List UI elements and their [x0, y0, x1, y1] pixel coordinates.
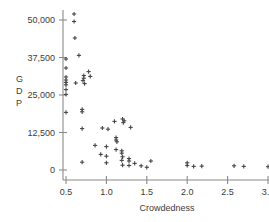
data-point-marker: [127, 163, 131, 167]
data-point-marker: [120, 155, 124, 159]
data-point-marker: [192, 164, 196, 168]
data-point-marker: [185, 163, 189, 167]
data-point-marker: [106, 127, 110, 131]
y-axis-title-letter: D: [16, 86, 23, 96]
y-axis-title-letter: G: [16, 74, 23, 84]
data-point-marker: [72, 19, 76, 23]
data-points: [64, 12, 269, 170]
data-point-marker: [232, 164, 236, 168]
data-point-marker: [133, 161, 137, 165]
data-point-marker: [74, 81, 78, 85]
data-point-marker: [64, 66, 68, 70]
x-tick-label: 2.5: [221, 187, 234, 197]
data-point-marker: [112, 119, 116, 123]
y-tick-label: 37,500: [27, 53, 55, 63]
y-axis: 012,50025,00037,50050,000: [27, 10, 67, 180]
y-tick-label: 25,000: [27, 90, 55, 100]
data-point-marker: [77, 53, 81, 57]
data-point-marker: [120, 151, 124, 155]
data-point-marker: [73, 36, 77, 40]
data-point-marker: [88, 74, 92, 78]
data-point-marker: [100, 126, 104, 130]
data-point-marker: [266, 165, 269, 169]
data-point-marker: [93, 143, 97, 147]
x-tick-label: 3.0: [262, 187, 269, 197]
plot-canvas: 012,50025,00037,50050,000 0.51.01.52.02.…: [0, 0, 269, 222]
data-point-marker: [127, 159, 131, 163]
scatter-plot-figure: 012,50025,00037,50050,000 0.51.01.52.02.…: [0, 0, 269, 222]
data-point-marker: [200, 164, 204, 168]
data-point-marker: [99, 152, 103, 156]
data-point-marker: [149, 159, 153, 163]
data-point-marker: [87, 70, 91, 74]
y-tick-label: 50,000: [27, 15, 55, 25]
x-tick-label: 2.0: [181, 187, 194, 197]
data-point-marker: [145, 165, 149, 169]
data-point-marker: [104, 161, 108, 165]
x-axis: 0.51.01.52.02.53.0: [60, 176, 269, 197]
data-point-marker: [104, 145, 108, 149]
data-point-marker: [104, 154, 108, 158]
data-point-marker: [80, 127, 84, 131]
data-point-marker: [139, 164, 143, 168]
y-axis-title-letter: P: [16, 98, 22, 108]
y-tick-label: 0: [50, 165, 55, 175]
data-point-marker: [120, 163, 124, 167]
x-tick-label: 1.5: [141, 187, 154, 197]
data-point-marker: [129, 125, 133, 129]
data-point-marker: [64, 83, 68, 87]
data-point-marker: [64, 88, 68, 92]
data-point-marker: [120, 158, 124, 162]
y-tick-label: 12,500: [27, 128, 55, 138]
data-point-marker: [72, 12, 76, 16]
data-point-marker: [64, 110, 68, 114]
x-tick-label: 0.5: [60, 187, 73, 197]
data-point-marker: [242, 164, 246, 168]
data-point-marker: [82, 76, 86, 80]
data-point-marker: [80, 160, 84, 164]
data-point-marker: [64, 92, 68, 96]
x-axis-title: Crowdedness: [139, 203, 195, 213]
x-tick-label: 1.0: [100, 187, 113, 197]
data-point-marker: [80, 110, 84, 114]
data-point-marker: [114, 148, 118, 152]
